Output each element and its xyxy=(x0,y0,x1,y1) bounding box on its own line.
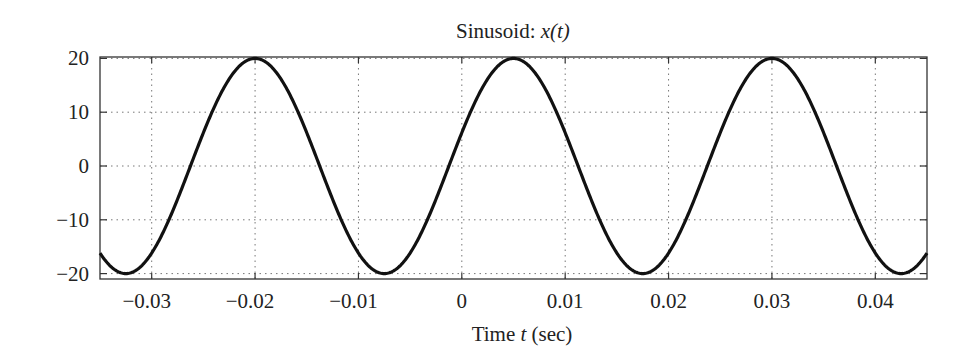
x-tick-label: −0.03 xyxy=(122,289,171,313)
chart-title-text: Sinusoid: x(t) xyxy=(456,19,570,43)
y-tick-label: 10 xyxy=(68,100,89,124)
chart: −0.03−0.02−0.0100.010.020.030.0420100−10… xyxy=(0,0,977,361)
x-axis-label-text: Time t (sec) xyxy=(472,322,573,346)
y-tick-label: 0 xyxy=(79,154,90,178)
y-tick-label: 20 xyxy=(68,46,89,70)
x-tick-label: −0.02 xyxy=(226,289,275,313)
x-tick-label: 0.03 xyxy=(754,289,791,313)
x-tick-label: 0.02 xyxy=(650,289,687,313)
y-tick-label: −10 xyxy=(56,208,89,232)
y-tick-label: −20 xyxy=(56,262,89,286)
x-tick-label: 0.04 xyxy=(857,289,894,313)
x-tick-label: −0.01 xyxy=(329,289,378,313)
x-tick-label: 0.01 xyxy=(547,289,584,313)
x-tick-label: 0 xyxy=(457,289,468,313)
